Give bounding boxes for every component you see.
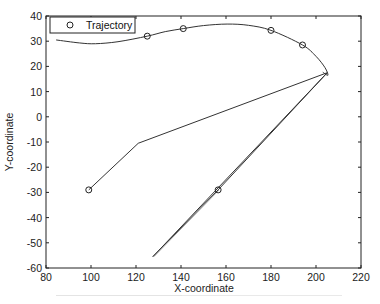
y-tick-label: 20 [30, 60, 42, 72]
x-tick-label: 200 [307, 271, 325, 283]
x-tick-label: 220 [352, 271, 370, 283]
x-tick-label: 120 [127, 271, 145, 283]
y-tick-label: 0 [36, 111, 42, 123]
y-tick-label: 10 [30, 86, 42, 98]
trajectory-chart: 80100120140160180200220403020100-10-20-3… [0, 0, 380, 304]
trajectory-segments [89, 73, 328, 257]
legend: Trajectory [50, 17, 135, 33]
y-tick-label: -50 [27, 237, 42, 249]
y-axis-label: Y-coordinate [3, 113, 15, 172]
y-tick-label: -30 [27, 186, 42, 198]
y-tick-label: -10 [27, 136, 42, 148]
x-axis-label: X-coordinate [174, 282, 234, 294]
trajectory-segment-shadow [154, 190, 219, 257]
y-tick-label: -60 [27, 262, 42, 274]
x-tick-label: 180 [262, 271, 280, 283]
divider [182, 295, 342, 296]
divider [56, 295, 182, 296]
y-tick-label: 40 [30, 10, 42, 22]
y-tick-label: 30 [30, 35, 42, 47]
y-tick-label: -40 [27, 212, 42, 224]
plot-area [56, 24, 328, 257]
x-tick-label: 100 [82, 271, 100, 283]
y-tick-label: -20 [27, 161, 42, 173]
legend-label: Trajectory [86, 19, 133, 31]
axis-tick-labels: 80100120140160180200220403020100-10-20-3… [27, 10, 370, 283]
